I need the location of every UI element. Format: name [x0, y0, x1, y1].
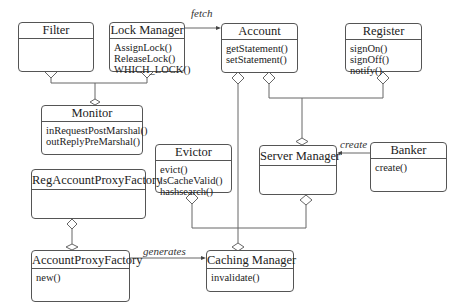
class-evictor: Evictor evict() isCacheValid() hashsearc…	[155, 144, 232, 193]
operation: outReplyPreMarshal()	[46, 136, 142, 147]
aggregation-diamond-icon	[232, 72, 244, 84]
class-account: Account getStatement() setStatement()	[221, 23, 298, 73]
class-filter: Filter	[18, 22, 94, 72]
class-operations: create()	[371, 159, 446, 173]
class-name: Monitor	[42, 106, 142, 122]
class-operations	[260, 166, 336, 169]
class-reg-account-proxy-factory: RegAccountProxyFactory	[31, 169, 146, 219]
operation: getStatement()	[226, 43, 297, 54]
operation: evict()	[160, 164, 231, 175]
operation: inRequestPostMarshal()	[46, 125, 142, 136]
aggregation-diamond-icon	[296, 138, 308, 145]
class-name: Register	[346, 24, 421, 40]
class-name: Banker	[371, 143, 446, 159]
class-operations: inRequestPostMarshal() outReplyPreMarsha…	[42, 122, 142, 147]
association-label-generates: generates	[143, 246, 186, 257]
operation: WHICH_LOCK()	[114, 64, 184, 75]
class-name: Account	[222, 24, 297, 40]
class-lock-manager: Lock Manager AssignLock() ReleaseLock() …	[109, 22, 185, 72]
class-monitor: Monitor inRequestPostMarshal() outReplyP…	[41, 105, 143, 155]
operation: invalidate()	[211, 272, 293, 283]
class-name: Server Manager	[260, 146, 336, 166]
class-name: AccountProxyFactory	[32, 251, 129, 269]
aggregation-diamond-icon	[300, 195, 312, 205]
class-operations: AssignLock() ReleaseLock() WHICH_LOCK()	[110, 39, 184, 75]
operation: ReleaseLock()	[114, 53, 184, 64]
operation: AssignLock()	[114, 42, 184, 53]
operation: hashsearch()	[160, 186, 231, 197]
association-label-create: create	[340, 139, 367, 150]
operation: signOff()	[350, 54, 421, 65]
class-server-manager: Server Manager	[259, 145, 337, 195]
class-operations: signOn() signOff() notify()	[346, 40, 421, 76]
operation: create()	[375, 162, 446, 173]
class-operations: new()	[32, 269, 129, 283]
class-operations	[32, 190, 145, 193]
aggregation-diamond-icon	[263, 72, 275, 84]
operation: notify()	[350, 65, 421, 76]
class-caching-manager: Caching Manager invalidate()	[206, 250, 294, 292]
aggregation-diamond-icon	[67, 219, 77, 229]
class-name: Evictor	[156, 145, 231, 161]
operation: setStatement()	[226, 54, 297, 65]
class-operations: getStatement() setStatement()	[222, 40, 297, 65]
class-name: Caching Manager	[207, 251, 293, 269]
class-name: Lock Manager	[110, 23, 184, 39]
class-name: RegAccountProxyFactory	[32, 170, 145, 190]
operation: isCacheValid()	[160, 175, 231, 186]
class-banker: Banker create()	[370, 142, 447, 192]
class-operations: invalidate()	[207, 269, 293, 283]
class-account-proxy-factory: AccountProxyFactory new()	[31, 250, 130, 302]
operation: new()	[36, 272, 129, 283]
class-operations: evict() isCacheValid() hashsearch()	[156, 161, 231, 197]
operation: signOn()	[350, 43, 421, 54]
class-operations	[19, 39, 93, 42]
class-name: Filter	[19, 23, 93, 39]
association-label-fetch: fetch	[191, 8, 212, 19]
class-register: Register signOn() signOff() notify()	[345, 23, 422, 72]
